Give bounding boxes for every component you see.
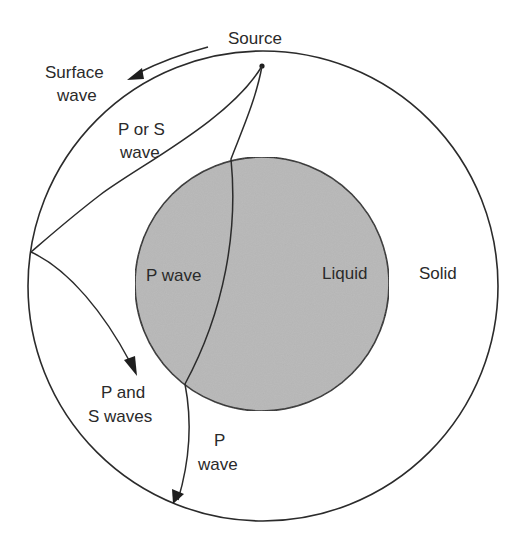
label-p-or-s-1: P or S: [118, 120, 165, 139]
p-and-s-wave-ray: [31, 252, 130, 362]
label-p-and-s-2: S waves: [88, 407, 152, 426]
surface-wave-arrowhead-icon: [127, 68, 144, 80]
p-wave-lower-arrowhead-icon: [172, 489, 184, 504]
seismic-wave-diagram: Source Surface wave P or S wave P wave L…: [0, 0, 517, 545]
label-p-or-s-2: wave: [119, 143, 160, 162]
label-source: Source: [228, 29, 282, 48]
label-liquid: Liquid: [322, 264, 367, 283]
p-wave-lower-ray: [178, 384, 189, 500]
label-surface-wave-2: wave: [56, 86, 97, 105]
label-surface-wave-1: Surface: [45, 63, 104, 82]
label-p-and-s-1: P and: [101, 383, 145, 402]
label-p-wave-lower-2: wave: [197, 455, 238, 474]
p-and-s-wave-arrowhead-icon: [124, 356, 137, 376]
label-p-wave-lower-1: P: [214, 431, 225, 450]
label-p-wave-core: P wave: [146, 266, 201, 285]
label-solid: Solid: [419, 264, 457, 283]
